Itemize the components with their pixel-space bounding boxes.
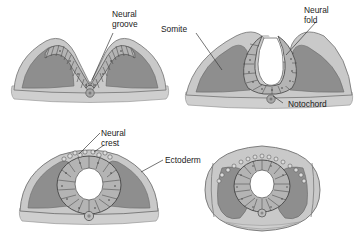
- label-neural-crest-line2: crest: [101, 138, 120, 148]
- neural-tube-lumen-4: [250, 170, 274, 198]
- label-neural-groove-line2: groove: [112, 19, 138, 29]
- notochord-core-2: [270, 98, 273, 101]
- label-neural-fold-line1: Neural: [304, 5, 329, 15]
- label-neural-groove-line1: Neural: [112, 9, 137, 19]
- label-ectoderm: Ectoderm: [165, 155, 201, 165]
- neural-groove-lumen: [258, 38, 283, 85]
- notochord-core: [89, 92, 92, 95]
- label-somite: Somite: [161, 24, 187, 34]
- neural-tube-lumen: [75, 168, 103, 200]
- notochord-core-3: [87, 214, 90, 217]
- notochord-core-4: [261, 212, 264, 215]
- label-neural-fold-line2: fold: [304, 15, 318, 25]
- neurulation-figure: .cellline { stroke:#4a4a4a; stroke-width…: [0, 0, 355, 236]
- panel-crest-migration: [205, 146, 320, 231]
- label-neural-crest-line1: Neural: [101, 128, 126, 138]
- label-notochord: Notochord: [288, 99, 327, 109]
